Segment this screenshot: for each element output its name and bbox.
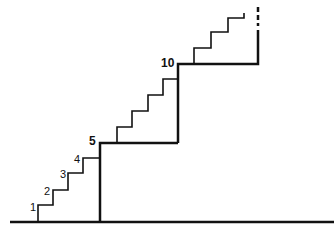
- small-steps-above-10: [194, 13, 244, 64]
- big-step-5: [100, 143, 178, 222]
- label-step-1: 1: [30, 201, 36, 213]
- label-step-10: 10: [161, 56, 175, 70]
- small-steps-5-to-10: [117, 79, 178, 143]
- label-step-3: 3: [60, 168, 66, 180]
- big-step-10: [178, 30, 258, 143]
- label-step-5: 5: [89, 134, 96, 148]
- label-step-2: 2: [44, 185, 50, 197]
- staircase-diagram: 1 2 3 4 5 10: [0, 0, 336, 235]
- label-step-4: 4: [74, 153, 80, 165]
